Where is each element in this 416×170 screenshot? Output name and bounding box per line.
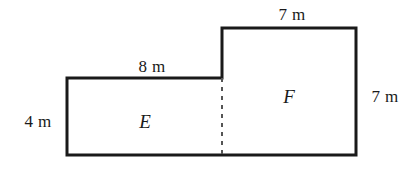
diagram-canvas: 7 m 4 m 8 m 7 m E F bbox=[0, 0, 416, 170]
dimension-label-mid-8m: 8 m bbox=[139, 57, 166, 77]
composite-figure-drawing bbox=[0, 0, 416, 170]
region-label-e: E bbox=[139, 111, 151, 133]
dimension-label-right-7m: 7 m bbox=[372, 87, 399, 107]
dimension-label-top-7m: 7 m bbox=[279, 5, 306, 25]
figure-outline bbox=[67, 28, 356, 155]
dimension-label-left-4m: 4 m bbox=[25, 112, 52, 132]
region-label-f: F bbox=[283, 86, 295, 108]
